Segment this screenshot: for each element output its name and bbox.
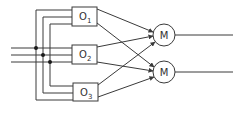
junction-dot-1 (34, 46, 38, 50)
merge-node-1: M (153, 24, 175, 46)
operator-o1: O1 (72, 7, 97, 26)
arrow-o2-m1 (97, 36, 153, 47)
operator-o3: O3 (73, 83, 98, 101)
svg-text:M: M (160, 67, 169, 78)
junction-dot-3 (48, 60, 52, 64)
network-diagram: O1 O2 O3 M M (0, 0, 242, 113)
merge-node-2: M (153, 61, 175, 83)
operator-o2: O2 (72, 45, 97, 64)
junction-dot-2 (41, 53, 45, 57)
arrow-o3-m2 (98, 77, 154, 97)
arrow-o2-m2 (97, 62, 153, 71)
connection-arrows (97, 9, 155, 97)
svg-text:M: M (160, 30, 169, 41)
output-lines (175, 35, 233, 72)
arrow-o1-m1 (97, 9, 153, 32)
